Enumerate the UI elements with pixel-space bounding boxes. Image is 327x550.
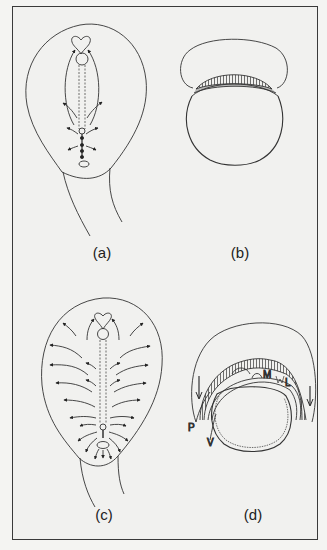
panel-label-c: (c) [95,506,113,523]
embryo-outline-c [42,298,163,466]
heart-icon [95,313,112,329]
panel-label-b: (b) [231,244,249,261]
outer-envelope-d [192,323,316,422]
panel-label-a: (a) [93,244,111,261]
panel-c [42,298,163,507]
yolk-sphere-b [186,96,282,165]
label-v: V [207,437,214,448]
panel-d: P V M L [188,323,316,452]
stem-left-a [63,172,90,236]
stem-right-a [110,168,123,222]
label-m: M [263,369,271,380]
label-l: L [285,377,291,388]
head-node [76,53,88,65]
panel-a [26,24,147,236]
yolk-d [212,387,292,452]
panel-b [181,39,288,165]
label-p: P [188,422,195,433]
diagram-canvas: P V M L [0,0,327,550]
panel-label-d: (d) [244,506,262,523]
